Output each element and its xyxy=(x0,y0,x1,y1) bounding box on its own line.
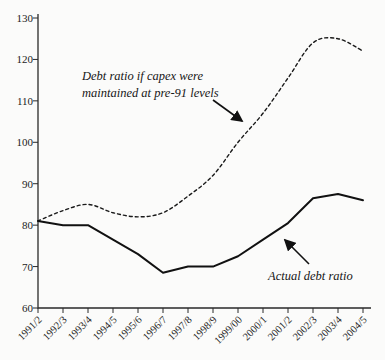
debt-ratio-chart: 60708090100110120130 1991/21992/31993/41… xyxy=(0,0,385,360)
annotation-actual-label: Actual debt ratio xyxy=(268,269,353,284)
annotation-capex-line1: Debt ratio if capex were xyxy=(82,68,219,85)
axis-frame xyxy=(38,14,371,308)
y-tick-label: 70 xyxy=(0,261,33,273)
series-capex-dashed-line xyxy=(38,38,363,221)
plot-area xyxy=(0,0,385,360)
y-tick-label: 60 xyxy=(0,302,33,314)
annotation-capex-line2: maintained at pre-91 levels xyxy=(82,85,219,102)
y-tick-label: 100 xyxy=(0,136,33,148)
y-tick-label: 90 xyxy=(0,178,33,190)
y-tick-label: 120 xyxy=(0,53,33,65)
arrow-to-dashed-line xyxy=(213,100,242,121)
y-tick-label: 80 xyxy=(0,219,33,231)
arrow-to-solid-line xyxy=(285,240,309,264)
y-tick-label: 110 xyxy=(0,95,33,107)
annotation-capex-label: Debt ratio if capex were maintained at p… xyxy=(82,68,219,102)
series-actual-solid-line xyxy=(38,194,363,273)
y-tick-label: 130 xyxy=(0,12,33,24)
